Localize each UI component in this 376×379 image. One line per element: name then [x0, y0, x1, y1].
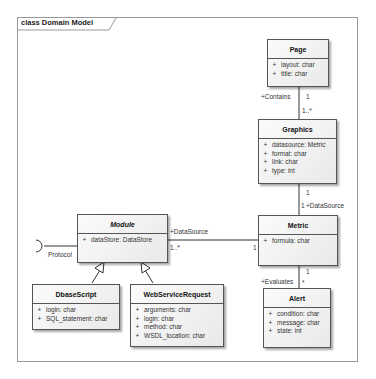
role-contains: +Contains: [261, 93, 290, 100]
class-dbasescript[interactable]: DbaseScript +login: char +SQL_statement:…: [32, 284, 120, 330]
class-name: WebServiceRequest: [131, 285, 223, 304]
multiplicity: 1..*: [170, 244, 180, 251]
attribute: +login: char: [33, 306, 119, 315]
attribute: +arguments: char: [131, 306, 223, 315]
attribute: +SQL_statement: char: [33, 315, 119, 324]
multiplicity: 1: [306, 189, 310, 196]
attribute: +layout: char: [268, 61, 328, 70]
attribute: +state: int: [264, 327, 330, 336]
class-alert[interactable]: Alert +condition: char +message: char +s…: [263, 288, 331, 348]
class-page[interactable]: Page +layout: char +title: char: [267, 39, 329, 87]
attribute: +title: char: [268, 70, 328, 79]
class-metric[interactable]: Metric +formula: char: [258, 215, 338, 266]
multiplicity: 1: [306, 268, 310, 275]
class-name: DbaseScript: [33, 285, 119, 304]
attribute: +format: char: [259, 150, 336, 159]
attribute: +condition: char: [264, 310, 330, 319]
attribute: +type: int: [259, 167, 336, 176]
role-evaluates: +Evaluates: [261, 278, 293, 285]
attribute: +formula: char: [259, 237, 337, 246]
class-webservicerequest[interactable]: WebServiceRequest +arguments: char +logi…: [130, 284, 224, 347]
interface-protocol-label: Protocol: [48, 251, 72, 258]
attribute: +dataStore: DataStore: [78, 236, 167, 245]
multiplicity: 1: [253, 244, 257, 251]
class-graphics[interactable]: Graphics +datasource: Metric +format: ch…: [258, 119, 337, 184]
attribute: +method: char: [131, 323, 223, 332]
class-name: Page: [268, 40, 328, 59]
multiplicity: 1: [306, 93, 310, 100]
class-name: Metric: [259, 216, 337, 235]
attribute: +login: char: [131, 315, 223, 324]
multiplicity: 1: [301, 202, 305, 209]
role-datasource: +DataSource: [306, 202, 344, 209]
attribute: +message: char: [264, 319, 330, 328]
attribute: +datasource: Metric: [259, 141, 336, 150]
role-datasource: +DataSource: [170, 228, 208, 235]
class-name: Alert: [264, 289, 330, 308]
multiplicity: *: [302, 279, 305, 286]
class-module[interactable]: Module +dataStore: DataStore: [77, 214, 168, 263]
attribute: +WSDL_location: char: [131, 332, 223, 341]
class-name: Graphics: [259, 120, 336, 139]
class-name: Module: [78, 215, 167, 234]
multiplicity: 1..*: [302, 107, 312, 114]
attribute: +link: char: [259, 158, 336, 167]
